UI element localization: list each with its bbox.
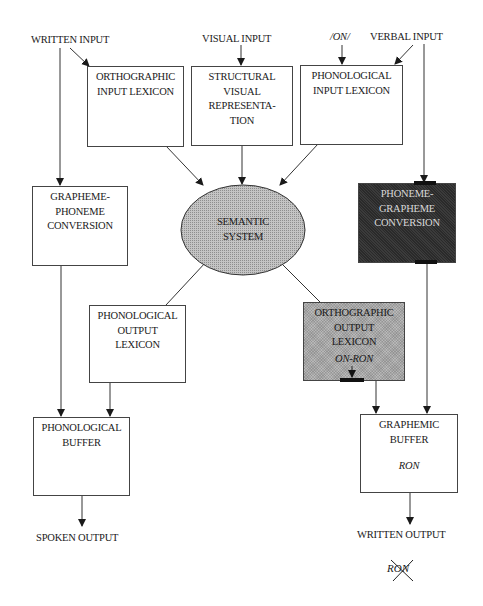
box-line: LEXICON — [90, 338, 185, 353]
structural-visual-representation-box: STRUCTURAL VISUAL REPRESENTA- TION — [191, 66, 293, 146]
phoneme-stimulus-label: /ON/ — [330, 30, 350, 43]
cross-out-mark-icon — [385, 557, 419, 583]
box-line: ORTHOGRAPHIC — [304, 306, 404, 321]
written-input-label: WRITTEN INPUT — [31, 33, 109, 46]
phoneme-grapheme-conversion-box: PHONEME- GRAPHEME CONVERSION — [358, 183, 456, 263]
phonological-buffer-box: PHONOLOGICAL BUFFER — [33, 417, 130, 496]
spoken-output-label: SPOKEN OUTPUT — [36, 531, 118, 544]
box-line: BUFFER — [361, 433, 457, 448]
box-line: LEXICON — [304, 335, 404, 350]
box-line: GRAPHEME- — [33, 190, 127, 205]
box-line: PHONEME- — [359, 187, 455, 202]
phonological-output-lexicon-box: PHONOLOGICAL OUTPUT LEXICON — [89, 305, 186, 383]
box-line: GRAPHEMIC — [361, 418, 457, 433]
box-line: REPRESENTA- — [192, 99, 292, 114]
box-line: SYSTEM — [196, 229, 290, 244]
semantic-system-label: SEMANTIC SYSTEM — [196, 214, 290, 244]
graphemic-buffer-item: RON — [361, 459, 457, 474]
visual-input-label: VISUAL INPUT — [202, 32, 271, 45]
box-line: CONVERSION — [359, 216, 455, 231]
box-line: VISUAL — [192, 85, 292, 100]
phonological-input-lexicon-box: PHONOLOGICAL INPUT LEXICON — [300, 65, 403, 145]
box-line: SEMANTIC — [196, 214, 290, 229]
box-line: GRAPHEME — [359, 202, 455, 217]
written-output-label: WRITTEN OUTPUT — [357, 528, 445, 541]
orthographic-block-bar — [340, 378, 364, 382]
box-line: PHONOLOGICAL — [34, 421, 129, 436]
orthographic-output-lexicon-box: ORTHOGRAPHIC OUTPUT LEXICON ON-RON — [303, 302, 405, 381]
orthographic-input-lexicon-box: ORTHOGRAPHIC INPUT LEXICON — [87, 66, 184, 147]
box-line: PHONOLOGICAL — [90, 309, 185, 324]
box-line: INPUT LEXICON — [301, 84, 402, 99]
box-line: STRUCTURAL — [192, 70, 292, 85]
box-line: BUFFER — [34, 436, 129, 451]
box-line: ORTHOGRAPHIC — [88, 70, 183, 85]
input-block-bar — [414, 181, 436, 185]
box-line: OUTPUT — [90, 324, 185, 339]
orthographic-output-item: ON-RON — [304, 352, 404, 367]
box-line: PHONEME — [33, 205, 127, 220]
box-line: PHONOLOGICAL — [301, 69, 402, 84]
box-line: TION — [192, 114, 292, 129]
box-line: CONVERSION — [33, 219, 127, 234]
output-block-bar — [415, 260, 437, 264]
grapheme-phoneme-conversion-box: GRAPHEME- PHONEME CONVERSION — [32, 186, 128, 266]
verbal-input-label: VERBAL INPUT — [370, 30, 443, 43]
box-line: INPUT LEXICON — [88, 85, 183, 100]
box-line: OUTPUT — [304, 321, 404, 336]
graphemic-buffer-box: GRAPHEMIC BUFFER RON — [360, 414, 458, 493]
